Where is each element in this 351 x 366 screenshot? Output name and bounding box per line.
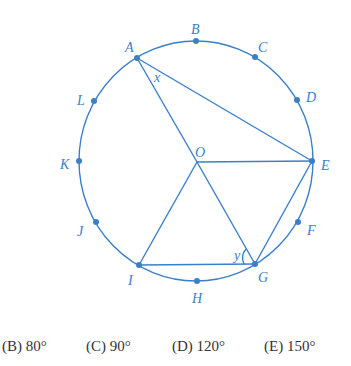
circle-diagram: ABCDEFGHIJKLOxy xyxy=(0,0,351,366)
point-l xyxy=(91,98,97,104)
point-label-c: C xyxy=(258,40,268,55)
point-label-k: K xyxy=(59,157,70,172)
point-f xyxy=(295,219,301,225)
point-label-j: J xyxy=(77,224,84,239)
point-label-a: A xyxy=(124,40,134,55)
point-label-l: L xyxy=(76,93,85,108)
segment-AE xyxy=(137,58,312,161)
choice-d: (D) 120° xyxy=(172,338,225,355)
choice-c: (C) 90° xyxy=(86,338,131,355)
point-e xyxy=(309,158,315,164)
point-d xyxy=(294,97,300,103)
point-k xyxy=(76,158,82,164)
segment-AO xyxy=(137,58,197,162)
segment-OI xyxy=(139,162,197,265)
segment-OG xyxy=(197,162,255,264)
point-h xyxy=(194,278,200,284)
angle-arc-y xyxy=(243,249,246,264)
point-i xyxy=(136,262,142,268)
segment-OE xyxy=(197,161,312,162)
choice-b: (B) 80° xyxy=(2,338,47,355)
point-label-e: E xyxy=(320,158,330,173)
segment-IG xyxy=(139,264,255,265)
point-label-d: D xyxy=(305,90,316,105)
angle-label-y: y xyxy=(232,248,241,263)
angle-label-x: x xyxy=(153,70,161,85)
point-b xyxy=(193,38,199,44)
center-label: O xyxy=(195,145,205,160)
choice-e: (E) 150° xyxy=(264,338,315,355)
point-label-g: G xyxy=(258,270,268,285)
segment-GE xyxy=(255,161,312,264)
point-label-h: H xyxy=(191,291,203,306)
point-label-i: I xyxy=(127,273,134,288)
point-label-f: F xyxy=(306,223,316,238)
point-a xyxy=(134,55,140,61)
point-j xyxy=(93,219,99,225)
point-label-b: B xyxy=(191,22,200,37)
point-g xyxy=(252,261,258,267)
